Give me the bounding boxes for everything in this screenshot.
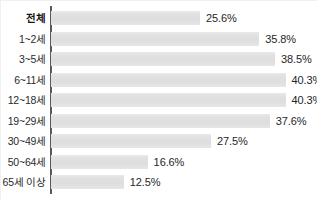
category-label: 전체 [0, 8, 46, 28]
bar [51, 32, 259, 46]
bar [51, 93, 286, 107]
bar-value-label: 40.3% [292, 70, 317, 90]
chart-row: 1~2세35.8% [0, 29, 317, 49]
chart-row: 65세 이상12.5% [0, 172, 317, 192]
bar-value-label: 37.6% [276, 111, 307, 131]
bar [51, 73, 286, 87]
bar [51, 52, 275, 66]
bar-value-label: 35.8% [265, 29, 296, 49]
category-label: 12~18세 [0, 90, 46, 110]
bar [51, 11, 200, 25]
bar-value-label: 27.5% [217, 131, 248, 151]
chart-row: 50~64세16.6% [0, 152, 317, 172]
chart-row: 12~18세40.3% [0, 90, 317, 110]
category-label: 1~2세 [0, 29, 46, 49]
bar [51, 175, 124, 189]
category-label: 30~49세 [0, 131, 46, 151]
bar-value-label: 25.6% [206, 8, 237, 28]
category-label: 19~29세 [0, 111, 46, 131]
chart-row: 30~49세27.5% [0, 131, 317, 151]
bar-value-label: 40.3% [292, 90, 317, 110]
category-label: 65세 이상 [0, 172, 46, 192]
chart-plot-area: 전체25.6%1~2세35.8%3~5세38.5%6~11세40.3%12~18… [0, 0, 317, 200]
category-label: 50~64세 [0, 152, 46, 172]
category-label: 6~11세 [0, 70, 46, 90]
bar [51, 114, 270, 128]
category-label: 3~5세 [0, 49, 46, 69]
bar [51, 134, 211, 148]
bar-value-label: 12.5% [130, 172, 161, 192]
chart-row: 19~29세37.6% [0, 111, 317, 131]
chart-row: 3~5세38.5% [0, 49, 317, 69]
bar-chart: 전체25.6%1~2세35.8%3~5세38.5%6~11세40.3%12~18… [0, 0, 317, 200]
bar-value-label: 16.6% [154, 152, 185, 172]
bar-value-label: 38.5% [281, 49, 312, 69]
chart-row: 전체25.6% [0, 8, 317, 28]
chart-row: 6~11세40.3% [0, 70, 317, 90]
bar [51, 155, 148, 169]
